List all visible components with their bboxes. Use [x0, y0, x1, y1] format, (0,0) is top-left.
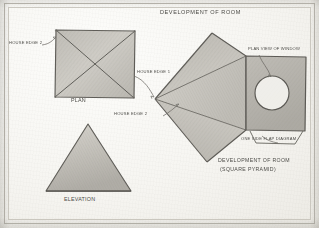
- callout-house-edge-2-plan: HOUSE EDGE 2: [9, 41, 42, 45]
- drawing-linework: [0, 0, 319, 228]
- development-flap-panel: [246, 56, 306, 144]
- callout-house-edge-2-dev: HOUSE EDGE 2: [114, 112, 147, 116]
- figure-plan: [54, 29, 135, 98]
- callout-house-edge-1: HOUSE EDGE 1: [137, 70, 170, 74]
- annotation-plan-view-of-window: PLAN VIEW OF WINDOW: [248, 47, 300, 51]
- caption-development-line2: (SQUARE PYRAMID): [220, 167, 276, 172]
- page-title: DEVELOPMENT OF ROOM: [160, 10, 241, 16]
- figure-development: [155, 33, 306, 162]
- leader-house-edge-1: [134, 76, 154, 97]
- annotation-one-side-flap-diagram: ONE SIDE FLAP DIAGRAM: [241, 137, 296, 141]
- label-elevation: ELEVATION: [64, 197, 95, 202]
- figure-elevation: [46, 124, 131, 191]
- drawing-sheet: DEVELOPMENT OF ROOM HOUSE EDGE 2 PLAN HO…: [0, 0, 319, 228]
- label-plan: PLAN: [71, 98, 86, 103]
- caption-development-line1: DEVELOPMENT OF ROOM: [218, 158, 290, 163]
